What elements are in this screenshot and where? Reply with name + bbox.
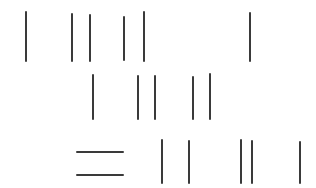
horizontal-stroke-mark <box>76 151 124 153</box>
horizontal-stroke-mark <box>76 174 124 176</box>
stroke-row-3 <box>0 0 316 188</box>
vertical-stroke-mark <box>161 139 163 184</box>
vertical-stroke-mark <box>188 140 190 184</box>
vertical-stroke-mark <box>251 140 253 184</box>
stroke-canvas <box>0 0 316 188</box>
vertical-stroke-mark <box>240 139 242 184</box>
vertical-stroke-mark <box>299 141 301 184</box>
